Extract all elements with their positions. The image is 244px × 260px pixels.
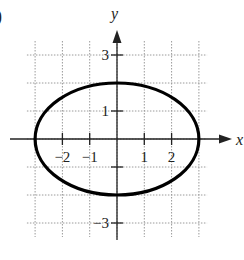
x-tick-label: 2 xyxy=(168,149,176,165)
y-axis-label: y xyxy=(109,5,119,23)
axes xyxy=(10,40,225,240)
x-axis-label: x xyxy=(235,131,243,148)
x-tick-label: 1 xyxy=(141,149,149,165)
figure-label-fragment: ) xyxy=(0,6,2,27)
x-tick-label: −1 xyxy=(82,149,98,165)
y-tick-label: 3 xyxy=(102,47,110,63)
ellipse-graph: ) x y −2−11231−3 xyxy=(0,0,244,260)
y-tick-label: −3 xyxy=(93,215,109,231)
y-axis-arrow-icon xyxy=(113,30,122,43)
x-tick-label: −2 xyxy=(54,149,70,165)
y-tick-label: 1 xyxy=(102,103,110,119)
x-axis-arrow-icon xyxy=(219,135,232,144)
